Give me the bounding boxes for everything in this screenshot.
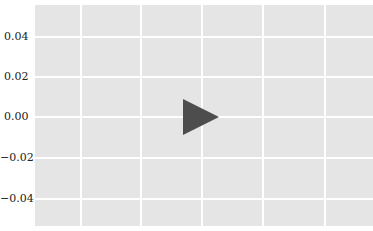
gridline-y-0.04	[35, 36, 373, 38]
gridline-y-neg0.04	[35, 198, 373, 200]
ytick-label: 0.02	[4, 71, 31, 83]
gridline-x-5	[324, 5, 326, 226]
gridline-x-2	[140, 5, 142, 226]
ytick-label: 0.04	[4, 31, 31, 43]
gridline-x-4	[262, 5, 264, 226]
gridline-y-0.02	[35, 76, 373, 78]
ytick-label: −0.04	[0, 193, 31, 205]
plot-area	[35, 5, 373, 226]
ytick-label: 0.00	[4, 111, 31, 123]
gridline-x-1	[80, 5, 82, 226]
gridline-y-neg0.02	[35, 157, 373, 159]
ytick-label: −0.02	[0, 152, 31, 164]
triangle-right-marker	[183, 99, 219, 135]
